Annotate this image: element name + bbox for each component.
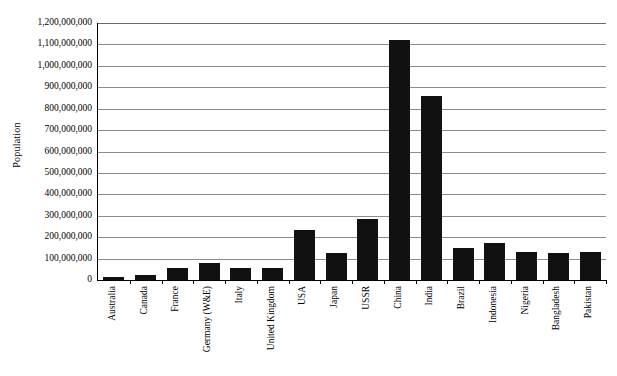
y-axis-tick-label: 700,000,000: [45, 125, 93, 135]
x-axis-tick-label-text: Australia: [108, 286, 118, 321]
bar: [103, 277, 124, 280]
bar: [389, 40, 410, 280]
x-axis-tick-mark: [574, 280, 575, 284]
x-axis-tick-mark: [130, 280, 131, 284]
x-axis-tick-mark: [289, 280, 290, 284]
x-axis-tick-label-text: Bangladesh: [553, 286, 563, 330]
x-axis-tick-label-text: United Kingdom: [267, 286, 277, 350]
x-axis-tick-label-text: Nigeria: [521, 286, 531, 315]
x-axis-tick-label: USSR: [361, 286, 373, 372]
x-axis-tick-label-text: India: [426, 286, 436, 306]
bar: [167, 268, 188, 280]
x-axis-tick-mark: [257, 280, 258, 284]
bar: [294, 230, 315, 280]
x-axis-tick-mark: [162, 280, 163, 284]
x-axis-tick-label-text: France: [172, 286, 182, 312]
bar: [516, 252, 537, 280]
bar: [421, 96, 442, 280]
x-axis-tick-label: Japan: [329, 286, 341, 372]
y-axis-tick-labels: 0100,000,000200,000,000300,000,000400,00…: [24, 0, 96, 290]
x-axis-tick-mark: [447, 280, 448, 284]
y-axis-tick-label: 100,000,000: [45, 254, 93, 264]
x-axis-tick-mark: [479, 280, 480, 284]
bar: [484, 243, 505, 280]
x-axis-tick-label: China: [393, 286, 405, 372]
y-axis-tick-label: 1,100,000,000: [37, 40, 92, 50]
x-axis-tick-label-text: Italy: [235, 286, 245, 303]
x-axis-tick-label-text: Pakistan: [584, 286, 594, 318]
x-axis-tick-label-text: Canada: [140, 286, 150, 315]
x-axis-tick-mark: [384, 280, 385, 284]
y-axis-tick-label: 400,000,000: [45, 190, 93, 200]
bar: [453, 248, 474, 280]
x-axis-tick-label: Pakistan: [583, 286, 595, 372]
x-axis-tick-label: France: [170, 286, 182, 372]
bar: [357, 219, 378, 280]
x-axis-tick-mark: [606, 280, 607, 284]
bar: [548, 253, 569, 280]
x-axis-tick-mark: [352, 280, 353, 284]
population-bar-chart: Population 0100,000,000200,000,000300,00…: [0, 0, 617, 376]
x-axis-tick-labels: AustraliaCanadaFranceGermany (W&E)ItalyU…: [97, 286, 605, 374]
x-axis-tick-label: Brazil: [456, 286, 468, 372]
x-axis-tick-label-text: Brazil: [457, 286, 467, 309]
x-axis-tick-label-text: USA: [299, 286, 309, 305]
y-axis-tick-label: 300,000,000: [45, 211, 93, 221]
x-axis-tick-label-text: USSR: [362, 286, 372, 310]
y-axis-tick-label: 1,000,000,000: [37, 61, 92, 71]
bar: [580, 252, 601, 280]
x-axis-tick-mark: [320, 280, 321, 284]
y-axis-tick-label: 0: [87, 275, 92, 285]
x-axis-tick-label: Germany (W&E): [202, 286, 214, 372]
x-axis-tick-label-text: China: [394, 286, 404, 309]
x-axis-tick-mark: [193, 280, 194, 284]
x-axis-tick-label: Italy: [234, 286, 246, 372]
bar: [262, 268, 283, 280]
y-axis-tick-label: 200,000,000: [45, 232, 93, 242]
x-axis-tick-mark: [511, 280, 512, 284]
y-axis-tick-label: 800,000,000: [45, 104, 93, 114]
x-axis-tick-label: Indonesia: [488, 286, 500, 372]
x-axis-tick-label: United Kingdom: [266, 286, 278, 372]
bar: [199, 263, 220, 280]
bar: [230, 268, 251, 280]
y-axis-tick-label: 900,000,000: [45, 83, 93, 93]
plot-area: [97, 23, 606, 281]
x-axis-tick-mark: [416, 280, 417, 284]
bar: [326, 253, 347, 280]
y-axis-tick-label: 1,200,000,000: [37, 18, 92, 28]
x-axis-tick-label: India: [424, 286, 436, 372]
x-axis-tick-label: Canada: [139, 286, 151, 372]
x-axis-tick-mark: [225, 280, 226, 284]
bars-layer: [98, 23, 606, 280]
x-axis-tick-label: USA: [297, 286, 309, 372]
x-axis-tick-label: Nigeria: [520, 286, 532, 372]
x-axis-tick-label-text: Germany (W&E): [203, 286, 213, 352]
y-axis-tick-label: 500,000,000: [45, 168, 93, 178]
x-axis-tick-mark: [543, 280, 544, 284]
x-axis-tick-label-text: Japan: [330, 286, 340, 308]
bar: [135, 275, 156, 280]
y-axis-tick-label: 600,000,000: [45, 147, 93, 157]
x-axis-tick-label-text: Indonesia: [489, 286, 499, 323]
x-axis-tick-label: Bangladesh: [551, 286, 563, 372]
x-axis-tick-label: Australia: [107, 286, 119, 372]
y-axis-title-label: Population: [12, 122, 22, 167]
